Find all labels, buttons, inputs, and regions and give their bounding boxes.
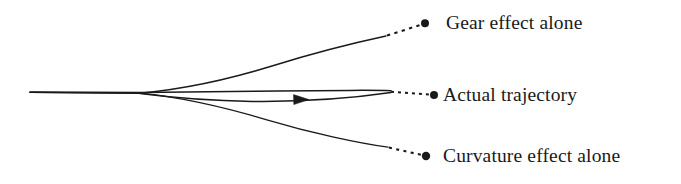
actual-trajectory-upper-path [30,90,391,92]
actual-trajectory-dashed-path [391,92,429,95]
trajectory-diagram: Gear effect alone Actual trajectory Curv… [0,0,681,184]
curvature-effect-label: Curvature effect alone [443,146,620,166]
curvature-effect-curve-group [30,92,430,160]
gear-effect-solid-path [30,36,386,93]
gear-effect-endpoint-dot [421,19,429,27]
gear-effect-dashed-path [387,25,421,36]
actual-trajectory-label: Actual trajectory [443,85,577,105]
actual-trajectory-curve-group [30,90,438,104]
gear-effect-curve-group [30,19,429,93]
gear-effect-label: Gear effect alone [446,13,582,33]
actual-trajectory-lower-path [140,93,391,102]
curvature-effect-endpoint-dot [422,152,430,160]
direction-arrowhead-icon [294,95,310,105]
curvature-effect-dashed-path [389,148,421,155]
actual-trajectory-endpoint-dot [430,91,438,99]
